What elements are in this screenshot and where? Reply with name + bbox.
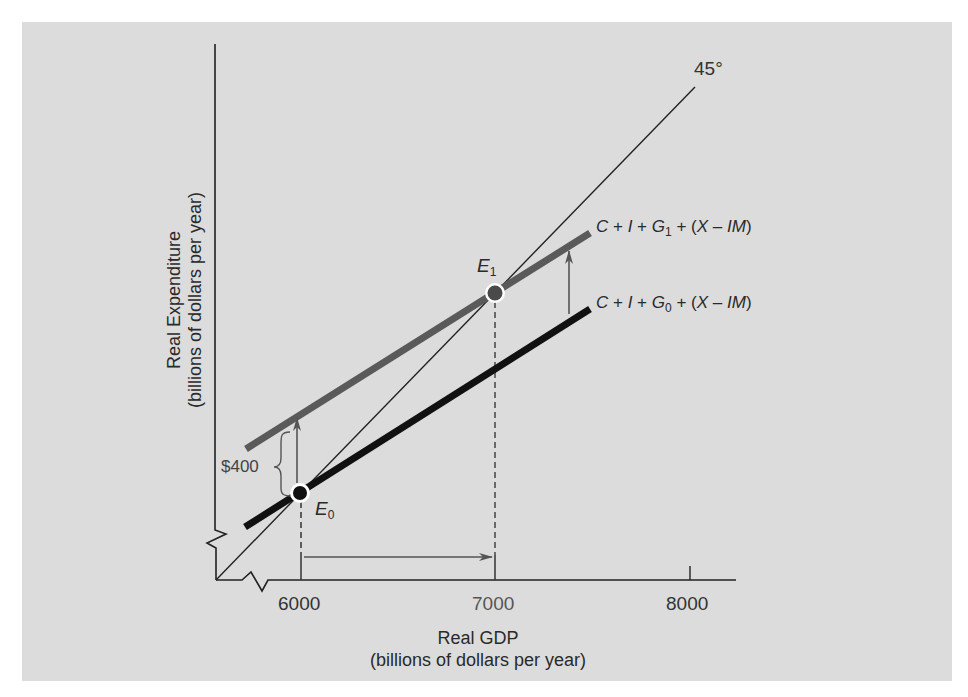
g-subscript: 0 xyxy=(665,301,672,315)
close-paren: ) xyxy=(746,217,752,236)
curve-label-g1: C + I + G1 + (X – IM) xyxy=(596,218,752,238)
im-term: IM xyxy=(727,217,746,236)
y-axis-title-main: Real Expenditure xyxy=(164,192,185,408)
y-axis-title: Real Expenditure (billions of dollars pe… xyxy=(164,192,206,408)
minus: – xyxy=(708,217,727,236)
e1-letter: E xyxy=(477,255,490,276)
e0-subscript: 0 xyxy=(328,508,335,522)
c-term: C xyxy=(596,217,608,236)
x-axis xyxy=(216,572,736,591)
g-subscript: 1 xyxy=(665,225,672,239)
x-tick-label-8000: 8000 xyxy=(666,594,708,613)
e1-label: E1 xyxy=(477,256,496,278)
y-axis-title-sub: (billions of dollars per year) xyxy=(185,192,206,408)
c-term: C xyxy=(596,293,608,312)
x-axis-title-main: Real GDP xyxy=(353,627,603,649)
x-axis-title: Real GDP (billions of dollars per year) xyxy=(353,627,603,671)
x-term: X xyxy=(697,293,708,312)
line-45-degree xyxy=(216,87,695,580)
plus-paren: + ( xyxy=(672,217,697,236)
im-term: IM xyxy=(727,293,746,312)
plus: + xyxy=(632,293,651,312)
x-axis-title-sub: (billions of dollars per year) xyxy=(353,649,603,671)
close-paren: ) xyxy=(746,293,752,312)
plus: + xyxy=(632,217,651,236)
y-axis xyxy=(207,44,226,580)
angle-label: 45° xyxy=(694,59,723,78)
plus-paren: + ( xyxy=(672,293,697,312)
plus: + xyxy=(608,217,627,236)
e1-subscript: 1 xyxy=(490,265,497,279)
x-term: X xyxy=(697,217,708,236)
e0-label: E0 xyxy=(315,499,334,521)
plus: + xyxy=(608,293,627,312)
x-tick-label-6000: 6000 xyxy=(278,594,320,613)
e0-letter: E xyxy=(315,498,328,519)
shift-brace xyxy=(274,432,292,496)
curve-label-g0: C + I + G0 + (X – IM) xyxy=(596,294,752,314)
shift-amount-label: $400 xyxy=(221,458,259,475)
g-term: G xyxy=(652,293,665,312)
minus: – xyxy=(708,293,727,312)
x-tick-label-7000: 7000 xyxy=(472,594,514,613)
g-term: G xyxy=(652,217,665,236)
